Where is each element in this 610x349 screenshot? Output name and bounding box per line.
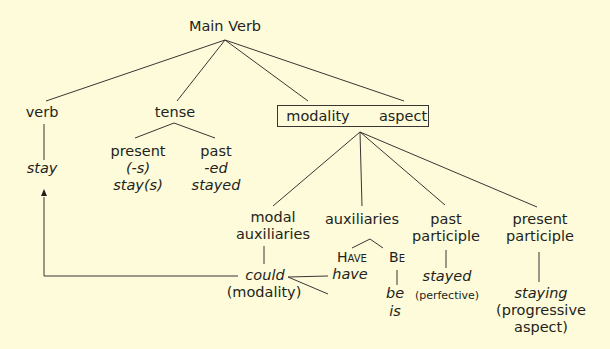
verb-node: verb xyxy=(26,104,59,121)
past-participle-line2: participle xyxy=(412,228,480,245)
aspect-node: aspect xyxy=(379,108,427,125)
past-marker: -ed xyxy=(204,160,227,177)
auxiliaries-node: auxiliaries xyxy=(325,211,399,228)
modality-note: (modality) xyxy=(227,284,302,301)
modal-aux-line2: auxiliaries xyxy=(236,226,310,243)
present-marker: (-s) xyxy=(126,160,150,177)
is-example: is xyxy=(389,303,401,320)
arrowhead-icon xyxy=(41,189,47,196)
root-node: Main Verb xyxy=(189,18,261,35)
past-node: past xyxy=(200,143,231,160)
be-example: be xyxy=(386,285,404,302)
stayed-example: stayed xyxy=(423,268,472,285)
past-participle-line1: past xyxy=(430,211,461,228)
present-example: stay(s) xyxy=(113,177,163,194)
verb-example: stay xyxy=(27,160,58,177)
present-participle-line2: participle xyxy=(506,228,574,245)
have-node: HAVE xyxy=(337,249,367,267)
progressive-note-line2: aspect) xyxy=(514,319,568,336)
tense-node: tense xyxy=(155,104,195,121)
progressive-note-line1: (progressive xyxy=(496,302,586,319)
could-example: could xyxy=(245,267,284,284)
past-example: stayed xyxy=(192,177,241,194)
present-participle-line1: present xyxy=(512,211,567,228)
modal-aux-line1: modal xyxy=(250,209,295,226)
be-node: BE xyxy=(389,249,405,267)
perfective-note: (perfective) xyxy=(415,287,479,304)
staying-example: staying xyxy=(514,285,567,302)
have-example: have xyxy=(332,266,368,283)
present-node: present xyxy=(110,143,165,160)
modality-node: modality xyxy=(286,108,349,125)
